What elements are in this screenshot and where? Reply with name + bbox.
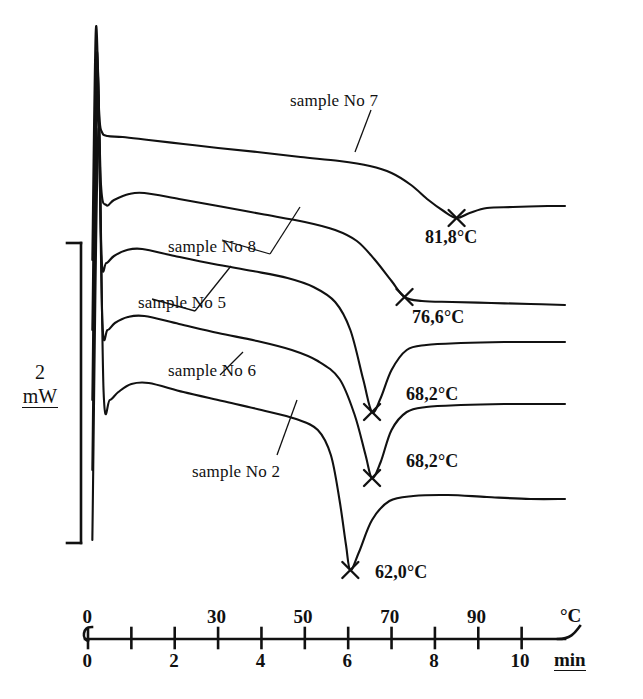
time-tick-label-2: 2 [169, 651, 179, 670]
scale-bar-value: 2 [14, 362, 66, 382]
curve-sample-no-7 [92, 26, 565, 260]
peak-label-76-6: 76,6°C [412, 308, 464, 326]
peak-marker-62 [342, 562, 358, 578]
temperature-tick-label-30: 30 [207, 607, 226, 626]
temperature-tick-label-90: 90 [467, 607, 486, 626]
temperature-axis-unit: °C [560, 606, 581, 625]
curve-label-sample-no-6: sample No 6 [168, 362, 256, 379]
peak-marker-76.6 [397, 289, 413, 305]
temperature-tick-label-0: 0 [82, 607, 92, 626]
curve-sample-no-6 [92, 93, 565, 478]
peak-marker-81.8 [449, 210, 465, 226]
curve-label-sample-no-5: sample No 5 [138, 294, 226, 311]
temperature-tick-label-50: 50 [294, 607, 313, 626]
peak-label-68-2-upper: 68,2°C [406, 385, 458, 403]
leader-line-sample-no-8-b [270, 207, 300, 254]
time-tick-label-10: 10 [510, 651, 529, 670]
curve-sample-no-2 [92, 128, 565, 570]
time-tick-label-8: 8 [429, 651, 439, 670]
curve-sample-no-5 [92, 68, 565, 413]
time-tick-label-6: 6 [343, 651, 353, 670]
peak-marker-68.2 [364, 470, 380, 486]
figure-canvas: 2 mW sample No 7 sample No 8 sample No 5… [0, 0, 643, 699]
scale-bar-unit: mW [22, 386, 58, 408]
curve-label-sample-no-7: sample No 7 [290, 92, 378, 109]
time-tick-label-0: 0 [82, 651, 92, 670]
axis-right-hook [558, 626, 580, 639]
axis-group [84, 626, 580, 648]
scale-bar-bracket [67, 243, 81, 543]
curve-label-sample-no-8: sample No 8 [168, 238, 256, 255]
peak-marker-68.2 [364, 404, 380, 420]
time-axis-unit: min [554, 650, 586, 671]
leader-line-sample-no-2 [277, 400, 297, 455]
temperature-tick-label-70: 70 [380, 607, 399, 626]
scale-bar-label: 2 mW [14, 362, 66, 408]
curve-label-sample-no-2: sample No 2 [192, 463, 280, 480]
peak-label-81-8: 81,8°C [425, 228, 477, 246]
peak-label-68-2-lower: 68,2°C [406, 452, 458, 470]
leader-line-sample-no-7 [355, 110, 371, 152]
time-tick-label-4: 4 [256, 651, 266, 670]
peak-label-62-0: 62,0°C [375, 563, 427, 581]
